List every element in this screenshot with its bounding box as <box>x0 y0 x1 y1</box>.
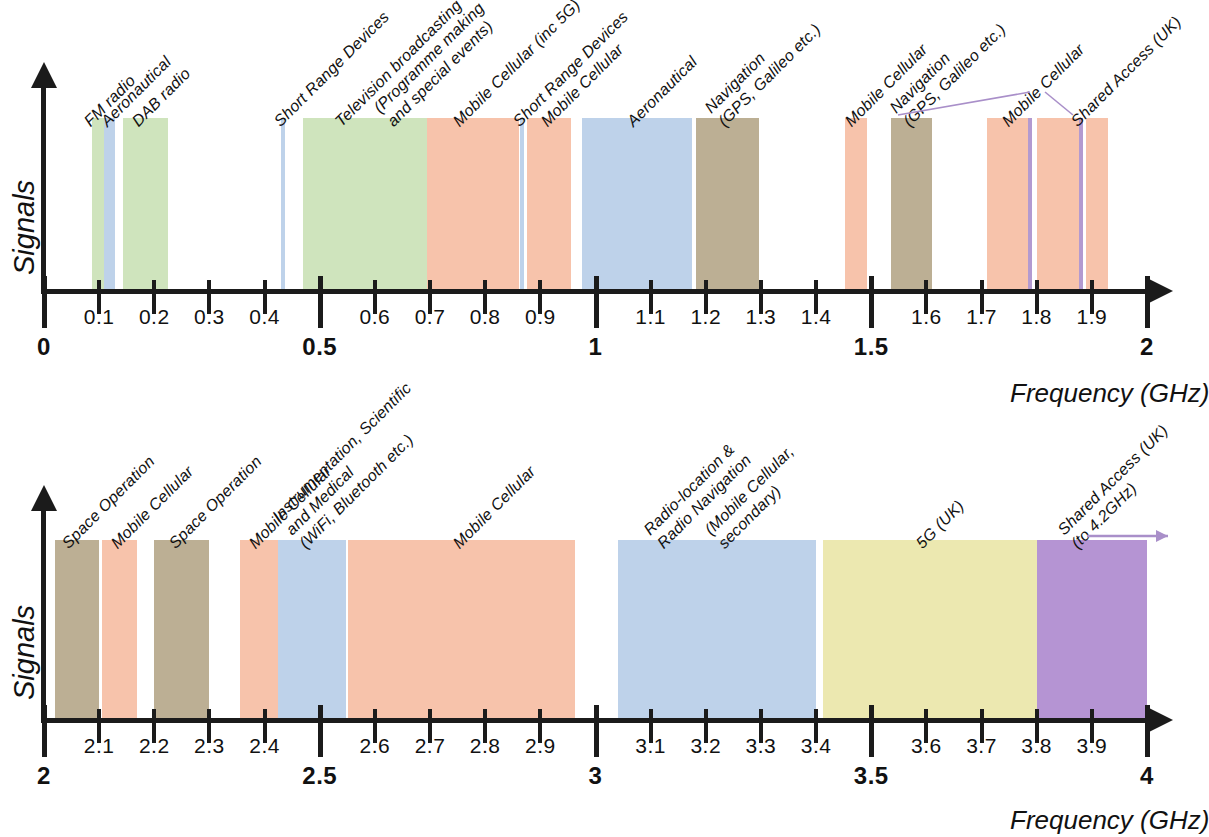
spectrum-band <box>520 118 524 290</box>
x-axis-tick-label: 3.7 <box>952 734 1012 758</box>
spectrum-band <box>240 540 279 718</box>
x-axis-arrow-bottom <box>1147 707 1173 733</box>
y-axis-arrow-bottom <box>31 485 57 511</box>
spectrum-band <box>92 118 104 290</box>
plot-area-top <box>44 118 1144 290</box>
x-axis-tick-label: 1.9 <box>1062 305 1122 329</box>
band-caption: Shared Access (UK) <box>1067 13 1185 131</box>
x-axis-tick-label: 0.3 <box>179 305 239 329</box>
spectrum-band <box>987 118 1028 290</box>
x-axis-tick-label: 3.3 <box>731 734 791 758</box>
x-axis-tick-label: 3.6 <box>896 734 956 758</box>
x-axis-tick-label: 0.6 <box>345 305 405 329</box>
x-axis-tick-label: 0.8 <box>455 305 515 329</box>
y-axis-arrow-top <box>31 62 57 88</box>
spectrum-band <box>348 540 574 718</box>
x-axis-tick <box>42 276 47 328</box>
x-axis-tick-label: 1.2 <box>676 305 736 329</box>
spectrum-band <box>891 118 932 290</box>
plot-area-bottom <box>44 540 1144 718</box>
x-axis-tick-label: 2.6 <box>345 734 405 758</box>
x-axis-tick <box>318 276 323 328</box>
x-axis-tick-label: 2.1 <box>69 734 129 758</box>
x-axis-tick-label: 3.5 <box>841 762 901 790</box>
x-axis-tick-label: 1 <box>566 333 626 361</box>
x-axis-arrow-top <box>1147 278 1173 304</box>
x-axis-tick-label: 1.7 <box>952 305 1012 329</box>
x-axis-tick-label: 0.5 <box>290 333 350 361</box>
y-axis-label-top: Signals <box>8 180 41 275</box>
x-axis-tick-label: 0.1 <box>69 305 129 329</box>
spectrum-panel-2-4ghz: Signals 2.12.22.32.42.62.72.82.93.13.23.… <box>0 420 1191 837</box>
x-axis-label-bottom: Frequency (GHz) <box>1010 805 1209 836</box>
spectrum-band <box>1028 118 1032 290</box>
x-axis-tick-label: 4 <box>1117 762 1177 790</box>
x-axis-tick <box>594 276 599 328</box>
x-axis-tick-label: 1.4 <box>786 305 846 329</box>
x-axis-tick <box>869 705 874 757</box>
x-axis-tick-label: 1.1 <box>621 305 681 329</box>
x-axis-tick-label: 2 <box>1117 333 1177 361</box>
x-axis-tick-label: 2.9 <box>510 734 570 758</box>
band-caption: Shared Access (UK) (to 4.2GHz) <box>1054 421 1185 552</box>
x-axis-tick-label: 3.2 <box>676 734 736 758</box>
spectrum-band <box>845 118 867 290</box>
spectrum-band <box>618 540 817 718</box>
x-axis-tick-label: 3.1 <box>621 734 681 758</box>
x-axis-tick-label: 0.7 <box>400 305 460 329</box>
band-caption: Short Range Devices <box>271 8 394 131</box>
spectrum-band <box>102 540 137 718</box>
spectrum-band <box>823 540 1037 718</box>
x-axis-tick-label: 2.3 <box>179 734 239 758</box>
band-caption: Short Range Devices <box>509 8 632 131</box>
spectrum-band <box>303 118 427 290</box>
x-axis-tick-label: 1.6 <box>896 305 956 329</box>
spectrum-band <box>1037 118 1079 290</box>
spectrum-band <box>281 118 285 290</box>
spectrum-band <box>55 540 99 718</box>
x-axis-tick <box>1145 276 1150 328</box>
y-axis-label-bottom: Signals <box>8 605 41 700</box>
x-axis-tick-label: 0.4 <box>235 305 295 329</box>
x-axis-tick-label: 0.9 <box>510 305 570 329</box>
x-axis-tick-label: 2.8 <box>455 734 515 758</box>
spectrum-band <box>104 118 115 290</box>
spectrum-band <box>1037 540 1147 718</box>
x-axis-tick <box>318 705 323 757</box>
x-axis-tick-label: 0 <box>14 333 74 361</box>
x-axis-tick-label: 2.2 <box>124 734 184 758</box>
spectrum-band <box>696 118 759 290</box>
x-axis-tick-label: 1.3 <box>731 305 791 329</box>
spectrum-band <box>154 540 209 718</box>
x-axis-tick <box>42 705 47 757</box>
x-axis-label-top: Frequency (GHz) <box>1010 378 1209 409</box>
x-axis-tick-label: 3.9 <box>1062 734 1122 758</box>
x-axis-tick-label: 3.8 <box>1007 734 1067 758</box>
band-caption: Navigation (GPS, Galileo etc.) <box>701 7 825 131</box>
spectrum-band <box>582 118 692 290</box>
spectrum-band <box>1086 118 1108 290</box>
spectrum-band <box>123 118 168 290</box>
spectrum-panel-0-2ghz: Signals 0.10.20.30.40.60.70.80.91.11.21.… <box>0 0 1191 420</box>
x-axis-tick-label: 3.4 <box>786 734 846 758</box>
x-axis-tick-label: 1.5 <box>841 333 901 361</box>
x-axis-tick-label: 1.8 <box>1007 305 1067 329</box>
x-axis-tick <box>869 276 874 328</box>
x-axis-tick-label: 2.5 <box>290 762 350 790</box>
spectrum-band <box>427 118 520 290</box>
x-axis-tick-label: 2.7 <box>400 734 460 758</box>
x-axis-tick <box>1145 705 1150 757</box>
spectrum-band <box>278 540 346 718</box>
x-axis-tick-label: 2.4 <box>235 734 295 758</box>
x-axis-tick-label: 3 <box>566 762 626 790</box>
x-axis-tick-label: 0.2 <box>124 305 184 329</box>
x-axis-tick <box>594 705 599 757</box>
x-axis-tick-label: 2 <box>14 762 74 790</box>
spectrum-band <box>527 118 571 290</box>
spectrum-band <box>1079 118 1083 290</box>
